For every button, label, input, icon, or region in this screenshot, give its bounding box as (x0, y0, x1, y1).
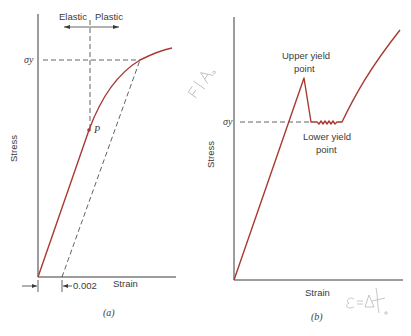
figure-canvas: Elastic Plastic σy P 0.002 Strain Stress… (0, 0, 411, 336)
panel-b-caption: (b) (311, 311, 323, 323)
panel-a: Elastic Plastic σy P 0.002 Strain Stress… (8, 11, 176, 319)
panel-a-stress-strain-curve (38, 48, 172, 277)
panel-a-point-p-label: P (93, 124, 100, 135)
panel-a-offset-label: 0.002 (73, 280, 97, 291)
handwritten-force-over-area-annotation (187, 64, 217, 98)
panel-a-yield-label: σy (24, 54, 34, 65)
panel-a-x-axis-label: Strain (113, 278, 138, 289)
handwritten-strain-annotation (347, 288, 388, 314)
panel-b-lower-yield-label-line2: point (316, 144, 337, 155)
arrowhead-right-icon (113, 25, 119, 29)
arrowhead-left-icon (63, 284, 68, 288)
panel-a-caption: (a) (103, 307, 115, 319)
panel-b-y-axis-label: Stress (205, 141, 216, 168)
panel-b-upper-yield-label-line2: point (294, 63, 315, 74)
arrowhead-left-icon (64, 25, 70, 29)
panel-b-lower-yield-label-line1: Lower yield (303, 131, 351, 142)
panel-a-point-p-marker (87, 128, 91, 132)
panel-b-upper-yield-label-line1: Upper yield (282, 50, 330, 61)
panel-b-x-axis-label: Strain (305, 287, 330, 298)
panel-b: Upper yield point Lower yield point σy S… (205, 17, 403, 323)
panel-a-offset-dashed-line (62, 60, 140, 277)
panel-a-y-axis-label: Stress (8, 135, 19, 162)
panel-a-elastic-label: Elastic (59, 11, 87, 22)
arrowhead-right-icon (32, 284, 37, 288)
panel-b-yield-label: σy (223, 116, 233, 127)
panel-b-stress-strain-curve (234, 30, 400, 280)
panel-a-plastic-label: Plastic (95, 11, 123, 22)
